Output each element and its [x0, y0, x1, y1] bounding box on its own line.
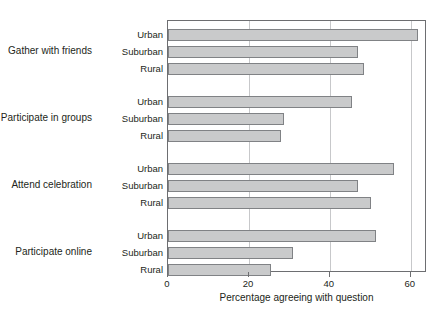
x-tick-label-60: 60 [390, 278, 430, 290]
series-label-suburban: Suburban [93, 113, 163, 125]
bar-chart: 0204060 UrbanSuburbanRuralUrbanSuburbanR… [0, 0, 448, 321]
plot-area [167, 20, 426, 272]
bar [168, 197, 371, 209]
group-label: Gather with friends [0, 45, 92, 57]
series-label-suburban: Suburban [93, 46, 163, 58]
bar [168, 46, 358, 58]
group-label: Participate in groups [0, 112, 92, 124]
x-tick-label-40: 40 [309, 278, 349, 290]
x-tick-label-0: 0 [147, 278, 187, 290]
bar [168, 230, 376, 242]
x-tick-40 [329, 272, 330, 277]
bar [168, 113, 284, 125]
bar [168, 247, 293, 259]
x-tick-0 [167, 272, 168, 277]
bar [168, 264, 271, 276]
series-label-rural: Rural [93, 197, 163, 209]
group-label: Attend celebration [0, 179, 92, 191]
series-label-suburban: Suburban [93, 247, 163, 259]
x-tick-20 [248, 272, 249, 277]
series-label-urban: Urban [93, 230, 163, 242]
x-axis-title: Percentage agreeing with question [167, 292, 426, 303]
series-label-suburban: Suburban [93, 180, 163, 192]
bar [168, 29, 418, 41]
bar [168, 96, 352, 108]
gridline-60 [411, 21, 412, 271]
series-label-rural: Rural [93, 63, 163, 75]
x-tick-label-20: 20 [228, 278, 268, 290]
series-label-urban: Urban [93, 96, 163, 108]
bar [168, 63, 364, 75]
bar [168, 130, 281, 142]
series-label-urban: Urban [93, 163, 163, 175]
bar [168, 180, 358, 192]
group-label: Participate online [0, 246, 92, 258]
series-label-urban: Urban [93, 29, 163, 41]
series-label-rural: Rural [93, 264, 163, 276]
series-label-rural: Rural [93, 130, 163, 142]
bar [168, 163, 394, 175]
x-tick-60 [410, 272, 411, 277]
